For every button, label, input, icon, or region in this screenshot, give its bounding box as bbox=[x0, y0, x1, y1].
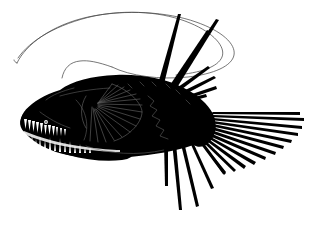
eye-pupil bbox=[45, 121, 47, 123]
eye-group bbox=[43, 119, 49, 125]
anglerfish-illustration bbox=[0, 0, 320, 228]
illustration-canvas: Black silhouette illustration of a deep-… bbox=[0, 0, 320, 228]
